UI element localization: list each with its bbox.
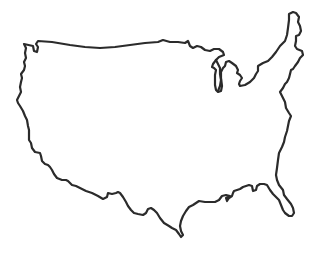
lake-michigan-outline: [216, 60, 221, 91]
us-outline-map: [0, 0, 318, 256]
us-border-outline: [17, 12, 303, 237]
